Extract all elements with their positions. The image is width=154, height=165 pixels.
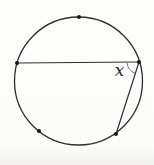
geometry-figure: x xyxy=(0,0,154,165)
bottom-left-point-dot xyxy=(37,129,41,133)
bottom-right-point-dot xyxy=(114,132,118,136)
angle-label: x xyxy=(115,60,125,80)
top-point-dot xyxy=(77,15,81,19)
circle-outline xyxy=(15,17,143,145)
geometry-svg: x xyxy=(0,0,154,165)
vertex-point-dot xyxy=(137,60,141,64)
left-chord-point-dot xyxy=(15,61,19,65)
angle-arc xyxy=(127,62,135,73)
